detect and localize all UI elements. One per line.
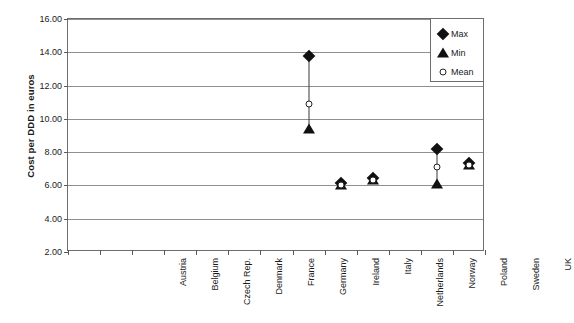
data-point-mean (433, 164, 440, 171)
x-axis-tick-label: France (306, 258, 317, 323)
x-axis-tick-label: Czech Rep. (242, 258, 253, 323)
x-axis-tick-mark (389, 250, 390, 255)
legend-label: Min (451, 48, 466, 58)
x-axis-tick-mark (100, 250, 101, 255)
x-axis-tick-label: Ireland (371, 258, 382, 323)
gridline (68, 152, 483, 153)
gridline (68, 219, 483, 220)
data-point-mean (337, 181, 344, 188)
y-axis-tick-label: 4.00 (18, 214, 68, 224)
data-point-max (431, 142, 444, 155)
x-axis-tick-mark (293, 250, 294, 255)
gridline (68, 185, 483, 186)
x-axis-tick-mark (453, 250, 454, 255)
x-axis-tick-mark (260, 250, 261, 255)
plot-area: 16.0014.0012.0010.008.006.004.002.00 (67, 18, 484, 251)
x-axis-tick-mark (132, 250, 133, 255)
x-axis-tick-mark (325, 250, 326, 255)
gridline (68, 119, 483, 120)
x-axis-tick-label: Sweden (531, 258, 542, 323)
x-axis-tick-label: Germany (338, 258, 349, 323)
gridline (68, 52, 483, 53)
legend-label: Max (451, 29, 468, 39)
legend-item-max[interactable]: Max (436, 24, 483, 43)
y-axis-tick-label: 14.00 (18, 47, 68, 57)
legend-item-min[interactable]: Min (436, 43, 483, 62)
legend-label: Mean (451, 67, 474, 77)
data-point-min (431, 178, 443, 188)
y-axis-tick-label: 16.00 (18, 14, 68, 24)
x-axis-tick-mark (68, 250, 69, 255)
chart-legend: MaxMinMean (430, 18, 484, 82)
filled-triangle-icon (436, 46, 450, 60)
x-axis-tick-label: UK (563, 258, 574, 323)
x-axis-tick-mark (196, 250, 197, 255)
x-axis-tick-label: Netherlands (435, 258, 446, 323)
x-axis-tick-mark (357, 250, 358, 255)
x-axis-tick-mark (164, 250, 165, 255)
gridline (68, 86, 483, 87)
open-circle-icon (436, 65, 450, 79)
x-axis-tick-label: Poland (499, 258, 510, 323)
y-axis-tick-label: 2.00 (18, 247, 68, 257)
x-axis-tick-label: Belgium (210, 258, 221, 323)
y-axis-tick-label: 10.00 (18, 114, 68, 124)
x-axis-tick-mark (485, 250, 486, 255)
y-axis-tick-label: 6.00 (18, 180, 68, 190)
data-point-mean (465, 161, 472, 168)
data-point-mean (369, 176, 376, 183)
gridline (68, 19, 483, 20)
filled-diamond-icon (436, 27, 450, 41)
legend-item-mean[interactable]: Mean (436, 62, 483, 81)
x-axis-tick-label: Italy (403, 258, 414, 323)
range-stem (308, 56, 309, 129)
y-axis-tick-label: 8.00 (18, 147, 68, 157)
data-point-min (303, 123, 315, 133)
x-axis-tick-mark (421, 250, 422, 255)
x-axis-tick-label: Austria (178, 258, 189, 323)
x-axis-tick-label: Norway (467, 258, 478, 323)
data-point-mean (305, 100, 312, 107)
x-axis-tick-mark (228, 250, 229, 255)
y-axis-tick-label: 12.00 (18, 81, 68, 91)
x-axis-tick-label: Denmark (274, 258, 285, 323)
